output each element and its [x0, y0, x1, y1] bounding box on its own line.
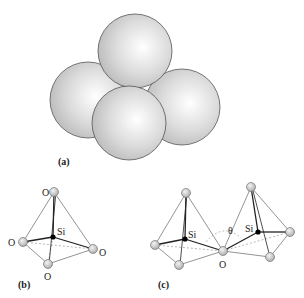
silicon-atom	[50, 234, 55, 239]
oxygen-atom-bridging	[219, 247, 228, 256]
panel-a-label: (a)	[58, 156, 70, 168]
silicate-structure-diagram: (a) O O Si O O (b)	[0, 0, 304, 298]
oxygen-atom-bottom	[44, 260, 53, 269]
oxygen-atom-left	[19, 238, 28, 247]
label-si-left: Si	[188, 229, 197, 240]
oxygen-atom-left-bottom	[175, 261, 184, 270]
silicon-atom-right	[255, 229, 260, 234]
oxygen-atom-right-bottom	[266, 253, 275, 262]
oxygen-atom-right-right	[286, 228, 295, 237]
oxygen-atom-left-left	[151, 241, 160, 250]
panel-c-tetrahedra	[151, 183, 295, 270]
oxygen-atom-right	[89, 245, 98, 254]
label-theta: θ	[228, 225, 233, 236]
label-si-right: Si	[245, 223, 254, 234]
panel-b-label: (b)	[18, 279, 30, 291]
label-o-top: O	[42, 187, 49, 198]
oxygen-atom-right-top	[247, 183, 256, 192]
label-o-bridging: O	[219, 259, 226, 270]
label-o-right: O	[99, 247, 106, 258]
silicon-atom-left	[182, 236, 187, 241]
oxygen-atom-top	[50, 188, 59, 197]
oxygen-atom-left-top	[182, 189, 191, 198]
label-si: Si	[57, 226, 66, 237]
sphere-top	[98, 14, 172, 88]
sphere-front	[92, 86, 166, 160]
panel-c-label: (c)	[158, 279, 169, 291]
panel-a-spheres	[50, 14, 220, 160]
label-o-bottom: O	[44, 271, 51, 282]
label-o-left: O	[8, 237, 15, 248]
